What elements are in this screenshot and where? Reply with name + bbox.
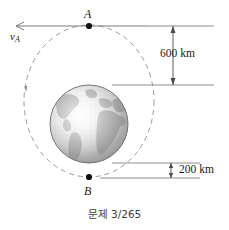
figure-graphics: [0, 0, 229, 230]
dimension-label-200km: 200 km: [179, 164, 214, 176]
figure-caption: 문제 3/265: [0, 206, 229, 221]
velocity-label: vA: [10, 31, 20, 44]
velocity-vector-a: [16, 22, 150, 30]
point-b-marker: [86, 174, 92, 180]
earth-globe: [50, 85, 128, 167]
orbital-mechanics-figure: A B vA 600 km 200 km 문제 3/265: [0, 0, 229, 230]
orbit-direction-arrow-icon: [25, 86, 28, 93]
dimension-arrow-200km: [169, 163, 173, 178]
point-a-marker: [86, 23, 92, 29]
point-a-label: A: [84, 8, 91, 20]
velocity-subscript: A: [15, 35, 20, 44]
point-b-label: B: [84, 185, 91, 197]
dimension-label-600km: 600 km: [160, 48, 195, 60]
